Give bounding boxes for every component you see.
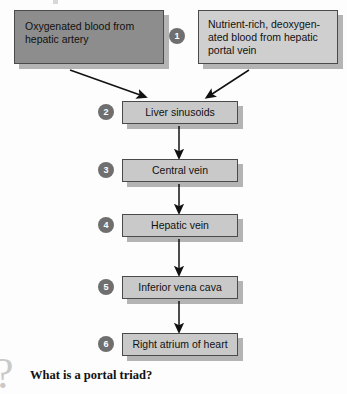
step-badge-5: 5 xyxy=(98,279,114,295)
step-badge-2: 2 xyxy=(98,104,114,120)
box-central-vein: Central vein xyxy=(122,159,238,182)
box-label-artery: Oxygenated blood from hepatic artery xyxy=(25,20,153,46)
step-badge-4: 4 xyxy=(98,217,114,233)
footer-question-block: ? What is a portal triad? xyxy=(0,358,347,394)
hepatic-blood-flow-diagram: Oxygenated blood from hepatic artery Nut… xyxy=(0,0,347,394)
box-label-inferior-vena-cava: Inferior vena cava xyxy=(123,281,237,294)
step-badge-1: 1 xyxy=(169,28,185,44)
box-liver-sinusoids: Liver sinusoids xyxy=(122,101,238,124)
box-nutrient-rich-portal-vein: Nutrient-rich, deoxygen-ated blood from … xyxy=(198,10,338,64)
box-label-central-vein: Central vein xyxy=(123,164,237,177)
box-oxygenated-blood-hepatic-artery: Oxygenated blood from hepatic artery xyxy=(14,10,164,64)
question-mark-icon: ? xyxy=(0,352,14,394)
box-label-liver-sinusoids: Liver sinusoids xyxy=(123,106,237,119)
box-label-right-atrium: Right atrium of heart xyxy=(123,338,237,351)
footer-question-text: What is a portal triad? xyxy=(30,368,152,383)
box-label-hepatic-vein: Hepatic vein xyxy=(123,219,237,232)
step-badge-6: 6 xyxy=(98,336,114,352)
box-right-atrium-of-heart: Right atrium of heart xyxy=(122,333,238,356)
box-inferior-vena-cava: Inferior vena cava xyxy=(122,276,238,299)
box-label-portal: Nutrient-rich, deoxygen-ated blood from … xyxy=(208,18,328,57)
arrow-portal-to-sinusoids xyxy=(209,70,249,96)
box-hepatic-vein: Hepatic vein xyxy=(122,214,238,237)
step-badge-3: 3 xyxy=(98,162,114,178)
arrow-artery-to-sinusoids xyxy=(70,70,143,96)
